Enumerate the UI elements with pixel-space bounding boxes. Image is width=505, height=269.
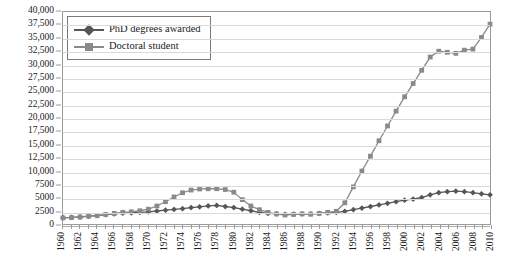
square-marker-icon <box>189 188 194 193</box>
x-axis-tick-label: 1960 <box>57 232 67 251</box>
diamond-marker-icon <box>376 202 382 208</box>
diamond-marker-icon <box>239 206 245 212</box>
x-axis-tick-mark <box>131 225 132 229</box>
square-marker-icon <box>257 207 262 212</box>
x-axis-tick-label: 1978 <box>211 232 221 251</box>
x-axis-tick-mark <box>302 225 303 229</box>
square-marker-icon <box>385 124 390 129</box>
square-marker-icon <box>180 190 185 195</box>
diamond-marker-icon <box>461 189 467 195</box>
square-marker-icon <box>197 187 202 192</box>
y-axis: 40,00037,50035,00032,50030,00027,50025,0… <box>0 11 58 225</box>
x-axis-tick-label: 1988 <box>297 232 307 251</box>
x-axis-tick-mark <box>79 225 80 229</box>
gridline <box>63 52 490 53</box>
square-marker-icon <box>74 41 104 53</box>
x-axis-tick-mark <box>156 225 157 229</box>
gridline <box>63 146 490 147</box>
y-axis-tick-label: 15,000 <box>28 140 54 150</box>
diamond-marker-icon <box>205 203 211 209</box>
square-marker-icon <box>223 187 228 192</box>
square-marker-icon <box>206 186 211 191</box>
y-axis-tick-label: 0 <box>49 220 54 230</box>
diamond-marker-icon <box>368 204 374 210</box>
y-axis-tick-label: 40,000 <box>28 6 54 16</box>
square-marker-icon <box>402 94 407 99</box>
square-marker-icon <box>342 200 347 205</box>
x-axis-tick-label: 1968 <box>126 232 136 251</box>
square-marker-icon <box>155 204 160 209</box>
diamond-marker-icon <box>436 190 442 196</box>
gridline <box>63 199 490 200</box>
x-axis-tick-label: 1998 <box>383 232 393 251</box>
x-axis-tick-label: 1996 <box>366 232 376 251</box>
y-axis-tick-label: 12,500 <box>28 153 54 163</box>
legend-label: Doctoral student <box>109 41 179 52</box>
x-axis-tick-label: 1964 <box>91 232 101 251</box>
square-marker-icon <box>69 215 74 220</box>
x-axis-tick-mark <box>259 225 260 229</box>
y-axis-tick-mark <box>56 24 61 25</box>
x-axis-tick-label: 1984 <box>263 232 273 251</box>
diamond-marker-icon <box>188 205 194 211</box>
x-axis-tick-mark <box>277 225 278 229</box>
gridline <box>63 79 490 80</box>
x-axis-tick-mark <box>191 225 192 229</box>
x-axis-tick-label: 1966 <box>108 232 118 251</box>
x-axis-tick-label: 1994 <box>349 232 359 251</box>
square-marker-icon <box>368 154 373 159</box>
square-marker-icon <box>231 190 236 195</box>
x-axis-tick-label: 2002 <box>417 232 427 251</box>
x-axis-tick-mark <box>234 225 235 229</box>
diamond-marker-icon <box>231 205 237 211</box>
x-axis-tick-label: 1986 <box>280 232 290 251</box>
gridline <box>63 92 490 93</box>
gridline <box>63 213 490 214</box>
x-axis-tick-mark <box>148 225 149 229</box>
y-axis-tick-mark <box>56 131 61 132</box>
x-axis-tick-label: 2010 <box>486 232 496 251</box>
x-axis-tick-mark <box>182 225 183 229</box>
y-axis-tick-label: 35,000 <box>28 33 54 43</box>
square-marker-icon <box>377 138 382 143</box>
y-axis-tick-mark <box>56 51 61 52</box>
x-axis-tick-mark <box>345 225 346 229</box>
square-marker-icon <box>471 47 476 52</box>
x-axis-tick-mark <box>448 225 449 229</box>
x-axis-tick-mark <box>216 225 217 229</box>
gridline <box>63 132 490 133</box>
x-axis-tick-mark <box>311 225 312 229</box>
y-axis-tick-mark <box>56 91 61 92</box>
x-axis-tick-mark <box>371 225 372 229</box>
y-axis-tick-mark <box>56 118 61 119</box>
gridline <box>63 39 490 40</box>
y-axis-tick-mark <box>56 225 61 226</box>
x-axis-tick-mark <box>88 225 89 229</box>
y-axis-tick-mark <box>56 11 61 12</box>
gridline <box>63 66 490 67</box>
y-axis-tick-label: 37,500 <box>28 20 54 30</box>
x-axis-tick-label: 2008 <box>469 232 479 251</box>
x-axis-tick-mark <box>122 225 123 229</box>
x-axis-tick-mark <box>465 225 466 229</box>
y-axis-tick-mark <box>56 64 61 65</box>
x-axis-tick-label: 1970 <box>143 232 153 251</box>
x-axis-tick-mark <box>440 225 441 229</box>
x-axis-tick-mark <box>422 225 423 229</box>
x-axis-tick-mark <box>285 225 286 229</box>
diamond-marker-icon <box>427 192 433 198</box>
diamond-marker-icon <box>197 204 203 210</box>
diamond-marker-icon <box>487 192 493 198</box>
x-axis-tick-mark <box>474 225 475 229</box>
y-axis-tick-mark <box>56 184 61 185</box>
y-axis-tick-label: 22,500 <box>28 100 54 110</box>
y-axis-tick-label: 27,500 <box>28 73 54 83</box>
x-axis-tick-label: 1972 <box>160 232 170 251</box>
x-axis-tick-mark <box>457 225 458 229</box>
x-axis-tick-mark <box>319 225 320 229</box>
square-marker-icon <box>411 81 416 86</box>
diamond-marker-icon <box>470 190 476 196</box>
y-axis-tick-label: 32,500 <box>28 46 54 56</box>
x-axis-tick-mark <box>397 225 398 229</box>
square-marker-icon <box>146 207 151 212</box>
